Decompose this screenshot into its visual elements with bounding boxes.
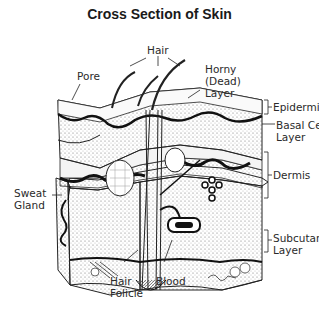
- label-hair-folicle: Hair Folicle: [110, 275, 143, 299]
- label-basal-cell-layer: Basal Cell Layer: [276, 119, 319, 143]
- label-sweat-gland: Sweat Gland: [14, 187, 46, 211]
- label-dermis: Dermis: [273, 169, 310, 181]
- label-epidermis: Epidermis: [273, 101, 319, 113]
- label-hair: Hair: [147, 44, 169, 56]
- label-pore: Pore: [77, 70, 100, 82]
- label-blood: Blood: [156, 275, 186, 287]
- label-subcutaneous-layer: Subcutaneous Layer: [273, 232, 319, 256]
- label-horny-layer: Horny (Dead) Layer: [205, 63, 241, 99]
